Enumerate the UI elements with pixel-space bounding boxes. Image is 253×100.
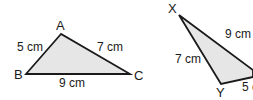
side-label-ab: 5 cm bbox=[17, 41, 43, 53]
side-label-ac: 7 cm bbox=[97, 41, 123, 53]
side-label-xz: 9 cm bbox=[225, 28, 251, 40]
vertex-label-b: B bbox=[14, 68, 23, 81]
side-label-bc: 9 cm bbox=[59, 77, 85, 89]
side-label-xy: 7 cm bbox=[175, 53, 201, 65]
vertex-label-y: Y bbox=[216, 86, 225, 99]
triangle-xyz bbox=[179, 15, 253, 84]
vertex-label-x: X bbox=[168, 2, 177, 15]
side-label-yz: 5 c bbox=[242, 81, 253, 93]
vertex-label-c: C bbox=[134, 69, 143, 82]
vertex-label-a: A bbox=[56, 19, 65, 32]
